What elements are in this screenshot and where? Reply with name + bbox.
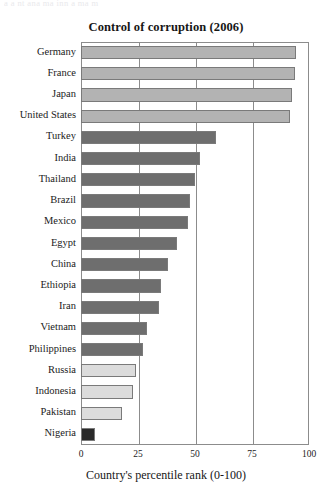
category-label-russia: Russia: [0, 364, 76, 375]
category-label-pakistan: Pakistan: [0, 406, 76, 417]
bar-thailand[interactable]: [81, 173, 195, 186]
bar-row[interactable]: [81, 322, 309, 335]
bar-vietnam[interactable]: [81, 322, 147, 335]
category-label-germany: Germany: [0, 46, 76, 57]
bar-row[interactable]: [81, 343, 309, 356]
x-tick-label-0: 0: [79, 449, 84, 459]
category-label-ethiopia: Ethiopia: [0, 279, 76, 290]
bar-china[interactable]: [81, 258, 168, 271]
bars-layer: [81, 42, 309, 445]
bar-turkey[interactable]: [81, 131, 216, 144]
category-label-brazil: Brazil: [0, 194, 76, 205]
x-tick-label-75: 75: [247, 449, 257, 459]
x-tick-label-100: 100: [302, 449, 316, 459]
bar-united-states[interactable]: [81, 110, 290, 123]
bar-row[interactable]: [81, 173, 309, 186]
x-axis-title: Country's percentile rank (0-100): [0, 468, 332, 483]
category-label-mexico: Mexico: [0, 215, 76, 226]
bar-india[interactable]: [81, 152, 200, 165]
bar-row[interactable]: [81, 67, 309, 80]
bar-row[interactable]: [81, 301, 309, 314]
category-label-philippines: Philippines: [0, 343, 76, 354]
bar-france[interactable]: [81, 67, 295, 80]
bar-row[interactable]: [81, 237, 309, 250]
bar-egypt[interactable]: [81, 237, 177, 250]
bar-row[interactable]: [81, 88, 309, 101]
bar-nigeria[interactable]: [81, 428, 95, 441]
category-label-nigeria: Nigeria: [0, 427, 76, 438]
x-axis-tick-labels: 0255075100: [0, 449, 332, 463]
category-label-thailand: Thailand: [0, 173, 76, 184]
x-tick-label-50: 50: [190, 449, 200, 459]
bar-indonesia[interactable]: [81, 385, 133, 398]
bar-row[interactable]: [81, 407, 309, 420]
bar-row[interactable]: [81, 428, 309, 441]
category-label-japan: Japan: [0, 88, 76, 99]
bar-row[interactable]: [81, 385, 309, 398]
bar-germany[interactable]: [81, 46, 296, 59]
chart-title: Control of corruption (2006): [0, 20, 332, 35]
category-label-iran: Iran: [0, 300, 76, 311]
bar-philippines[interactable]: [81, 343, 143, 356]
bar-row[interactable]: [81, 131, 309, 144]
bar-row[interactable]: [81, 110, 309, 123]
bar-pakistan[interactable]: [81, 407, 122, 420]
category-axis-labels: GermanyFranceJapanUnited StatesTurkeyInd…: [0, 42, 76, 445]
clipped-header-text: a a nt ana ma inn a ma m: [4, 0, 328, 7]
bar-row[interactable]: [81, 258, 309, 271]
bar-row[interactable]: [81, 46, 309, 59]
category-label-china: China: [0, 258, 76, 269]
category-label-india: India: [0, 152, 76, 163]
bar-row[interactable]: [81, 364, 309, 377]
category-label-turkey: Turkey: [0, 130, 76, 141]
bar-mexico[interactable]: [81, 216, 188, 229]
bar-row[interactable]: [81, 279, 309, 292]
bar-row[interactable]: [81, 152, 309, 165]
bar-row[interactable]: [81, 216, 309, 229]
bar-ethiopia[interactable]: [81, 279, 161, 292]
x-tick-label-25: 25: [133, 449, 143, 459]
category-label-indonesia: Indonesia: [0, 385, 76, 396]
category-label-egypt: Egypt: [0, 237, 76, 248]
category-label-united-states: United States: [0, 109, 76, 120]
bar-russia[interactable]: [81, 364, 136, 377]
bar-brazil[interactable]: [81, 194, 190, 207]
bar-japan[interactable]: [81, 88, 292, 101]
category-label-france: France: [0, 67, 76, 78]
category-label-vietnam: Vietnam: [0, 321, 76, 332]
bar-iran[interactable]: [81, 301, 159, 314]
bar-row[interactable]: [81, 194, 309, 207]
chart-page: a a nt ana ma inn a ma m Control of corr…: [0, 0, 332, 500]
